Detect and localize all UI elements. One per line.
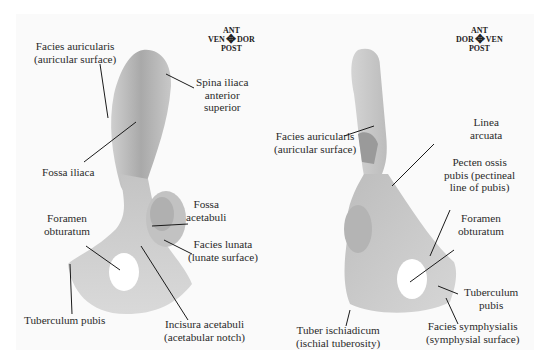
orientation-compass-right: ANT DOR ✥ VEN POST <box>456 26 503 53</box>
label-fossa-iliaca: Fossa iliaca <box>42 166 95 179</box>
compass-left-label: VEN <box>208 35 225 44</box>
right-view-panel: ANT DOR ✥ VEN POST Facies auricularis (a… <box>274 14 534 350</box>
label-linea-arcuata: Linea arcuata <box>470 116 502 141</box>
four-way-arrow-icon: ✥ <box>226 35 236 44</box>
label-foramen-obturatum: Foramen obturatum <box>458 212 504 237</box>
compass-bottom-label: POST <box>208 44 255 53</box>
left-view-panel: ANT VEN ✥ DOR POST Facies auricularis (a… <box>16 14 276 350</box>
orientation-compass-left: ANT VEN ✥ DOR POST <box>208 26 255 53</box>
label-foramen-obturatum: Foramen obturatum <box>44 212 90 237</box>
label-pecten-ossis-pubis: Pecten ossis pubis (pectineal line of pu… <box>444 156 515 194</box>
label-facies-auricularis: Facies auricularis (auricular surface) <box>34 40 116 65</box>
label-tuber-ischiadicum: Tuber ischiadicum (ischial tuberosity) <box>296 324 380 349</box>
label-incisura-acetabuli: Incisura acetabuli (acetabular notch) <box>164 318 245 343</box>
compass-left-label: DOR <box>456 35 474 44</box>
label-tuberculum-pubis: Tuberculum pubis <box>24 314 105 327</box>
compass-bottom-label: POST <box>456 44 503 53</box>
label-facies-symphysialis: Facies symphysialis (symphysial surface) <box>426 320 520 345</box>
label-fossa-acetabuli: Fossa acetabuli <box>186 198 226 223</box>
label-facies-lunata: Facies lunata (lunate surface) <box>188 238 258 263</box>
label-tuberculum-pubis: Tuberculum pubis <box>464 286 518 311</box>
four-way-arrow-icon: ✥ <box>475 35 485 44</box>
label-spina-iliaca: Spina iliaca anterior superior <box>196 76 249 114</box>
compass-right-label: DOR <box>237 35 255 44</box>
label-facies-auricularis: Facies auricularis (auricular surface) <box>274 130 356 155</box>
compass-right-label: VEN <box>486 35 503 44</box>
